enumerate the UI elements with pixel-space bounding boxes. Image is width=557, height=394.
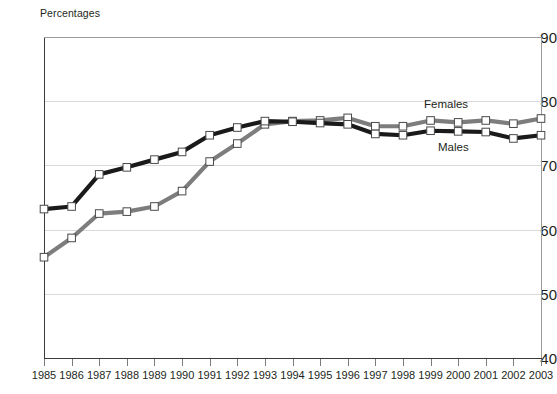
x-axis-tick-mark xyxy=(348,359,349,366)
x-axis-tick-mark xyxy=(265,359,266,366)
x-axis-tick-mark xyxy=(127,359,128,366)
x-axis-tick-label: 1991 xyxy=(197,370,221,381)
x-axis-tick-label: 1992 xyxy=(225,370,249,381)
x-axis-tick-label: 1988 xyxy=(115,370,139,381)
x-axis-tick-label: 2002 xyxy=(501,370,525,381)
x-axis-tick-label: 2000 xyxy=(446,370,470,381)
x-axis-tick-mark xyxy=(72,359,73,366)
x-axis-tick-label: 2001 xyxy=(474,370,498,381)
x-axis-tick-label: 2003 xyxy=(529,370,553,381)
x-axis-tick-mark xyxy=(237,359,238,366)
x-axis-tick-mark xyxy=(320,359,321,366)
chart-figure: Percentages 405060708090 198519861987198… xyxy=(0,0,557,394)
x-axis-tick-label: 1986 xyxy=(59,370,83,381)
x-axis-tick-mark xyxy=(458,359,459,366)
x-axis-tick-label: 1987 xyxy=(87,370,111,381)
x-axis-tick-mark xyxy=(182,359,183,366)
series-label-females: Females xyxy=(424,99,468,111)
x-axis-tick-label: 1990 xyxy=(170,370,194,381)
x-axis-tick-mark xyxy=(375,359,376,366)
x-axis-tick-mark xyxy=(431,359,432,366)
plot-frame-right xyxy=(541,37,542,358)
x-axis-tick-label: 1996 xyxy=(335,370,359,381)
x-axis-tick-mark xyxy=(293,359,294,366)
x-axis-tick-label: 1995 xyxy=(308,370,332,381)
x-axis-tick-mark xyxy=(154,359,155,366)
x-axis-tick-label: 1989 xyxy=(142,370,166,381)
x-axis-tick-label: 1994 xyxy=(280,370,304,381)
x-axis-tick-mark xyxy=(44,359,45,366)
x-axis-tick-mark xyxy=(403,359,404,366)
x-axis-tick-mark xyxy=(541,359,542,366)
x-axis-tick-label: 1998 xyxy=(391,370,415,381)
x-axis-tick-label: 1985 xyxy=(32,370,56,381)
x-axis-tick-label: 1993 xyxy=(253,370,277,381)
x-axis-tick-mark xyxy=(513,359,514,366)
plot-area xyxy=(44,37,542,359)
x-axis-tick-label: 1999 xyxy=(418,370,442,381)
x-axis-tick-mark xyxy=(486,359,487,366)
x-axis-tick-mark xyxy=(99,359,100,366)
plot-frame-top xyxy=(44,37,541,38)
x-axis-tick-label: 1997 xyxy=(363,370,387,381)
series-label-males: Males xyxy=(438,142,469,154)
y-axis-title: Percentages xyxy=(40,7,100,19)
x-axis-tick-mark xyxy=(210,359,211,366)
